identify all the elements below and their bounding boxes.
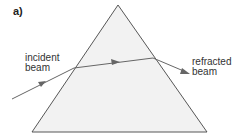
incident-beam-label: incident beam (25, 53, 59, 73)
panel-label: a) (13, 5, 23, 17)
refracted-beam-arrow-icon (180, 68, 190, 74)
incident-label-line2: beam (25, 63, 59, 73)
refracted-beam-label: refracted beam (192, 57, 231, 77)
incident-beam-arrow-icon (38, 81, 46, 87)
refracted-label-line2: beam (192, 67, 231, 77)
